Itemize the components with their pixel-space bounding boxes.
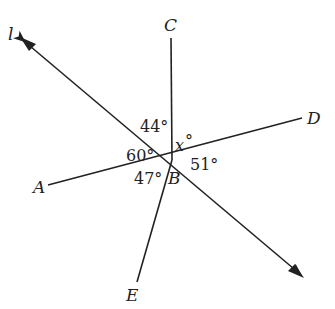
label-e: E [125,285,139,305]
angle-x: x [175,136,184,155]
angle-51: 51° [190,155,218,174]
label-a: A [31,177,45,197]
label-b: B [167,168,181,188]
geometry-diagram: l C D A B E 44° 60° 47° 51° x ° [0,0,335,309]
ray-bc [171,38,172,160]
angle-47: 47° [134,169,162,188]
angle-44: 44° [140,117,168,136]
label-d: D [306,108,321,128]
label-c: C [164,15,177,35]
angle-60: 60° [126,146,154,165]
line-l [24,41,300,274]
angle-x-degree: ° [185,131,193,150]
label-l: l [8,24,13,44]
